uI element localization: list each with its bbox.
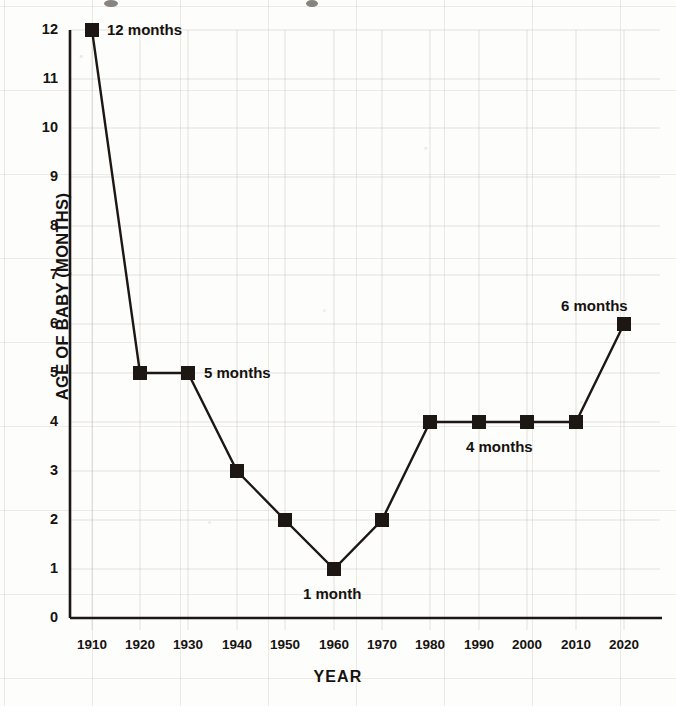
data-point-1940 [230, 464, 244, 478]
x-tick-1930: 1930 [161, 637, 215, 652]
x-tick-1980: 1980 [403, 637, 457, 652]
y-tick-12: 12 [28, 21, 58, 37]
data-point-2000 [520, 415, 534, 429]
y-axis-title-text: AGE OF BABY (MONTHS) [53, 193, 71, 400]
x-tick-1940: 1940 [210, 637, 264, 652]
x-tick-1950: 1950 [258, 637, 312, 652]
data-point-2010 [569, 415, 583, 429]
y-tick-2: 2 [28, 511, 58, 527]
x-tick-1910: 1910 [65, 637, 119, 652]
data-point-1980 [423, 415, 437, 429]
data-point-1960 [327, 562, 341, 576]
x-tick-2000: 2000 [500, 637, 554, 652]
gridlines [70, 30, 660, 630]
data-point-1970 [375, 513, 389, 527]
data-point-1990 [472, 415, 486, 429]
x-axis-title: YEAR [0, 668, 676, 686]
y-tick-3: 3 [28, 462, 58, 478]
data-point-1950 [278, 513, 292, 527]
data-point-1920 [133, 366, 147, 380]
x-tick-1960: 1960 [307, 637, 361, 652]
data-point-1930 [181, 366, 195, 380]
x-tick-2020: 2020 [597, 637, 651, 652]
data-point-2020 [617, 317, 631, 331]
x-tick-1970: 1970 [355, 637, 409, 652]
data-point-markers [85, 23, 631, 576]
data-point-1910 [85, 23, 99, 37]
chart-figure: 12 11 10 9 8 7 6 5 4 3 2 1 0 1910 1920 1… [0, 0, 676, 706]
y-axis-title: AGE OF BABY (MONTHS) [53, 147, 72, 447]
annotation-5-months: 5 months [204, 364, 271, 381]
annotation-1-month: 1 month [303, 585, 361, 602]
x-tick-1990: 1990 [452, 637, 506, 652]
x-tick-2010: 2010 [549, 637, 603, 652]
y-tick-1: 1 [28, 560, 58, 576]
y-tick-0: 0 [28, 609, 58, 625]
annotation-12-months: 12 months [107, 21, 182, 38]
x-tick-1920: 1920 [113, 637, 167, 652]
data-series-line [92, 30, 624, 569]
y-tick-10: 10 [28, 119, 58, 135]
annotation-6-months: 6 months [561, 297, 628, 314]
y-tick-11: 11 [28, 70, 58, 86]
annotation-4-months: 4 months [466, 438, 533, 455]
